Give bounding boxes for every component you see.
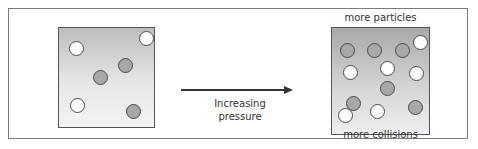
white-particle-icon: [139, 31, 154, 46]
grey-particle-icon: [367, 43, 382, 58]
more-collisions-label: more collisions: [331, 128, 430, 141]
arrow-shaft: [181, 89, 285, 91]
low-pressure-container: [58, 27, 155, 128]
arrow-head: [284, 86, 293, 94]
arrow-label-line2: pressure: [200, 110, 280, 123]
white-particle-icon: [413, 35, 428, 50]
white-particle-icon: [343, 65, 358, 80]
arrow-label: Increasing pressure: [200, 97, 280, 123]
arrow-label-line1: Increasing: [200, 97, 280, 110]
white-particle-icon: [69, 41, 84, 56]
grey-particle-icon: [380, 81, 395, 96]
white-particle-icon: [370, 104, 385, 119]
arrow-right-icon: [181, 86, 293, 94]
grey-particle-icon: [93, 70, 108, 85]
grey-particle-icon: [395, 43, 410, 58]
grey-particle-icon: [408, 100, 423, 115]
grey-particle-icon: [118, 58, 133, 73]
white-particle-icon: [380, 61, 395, 76]
white-particle-icon: [409, 66, 424, 81]
more-particles-label: more particles: [331, 11, 430, 24]
white-particle-icon: [338, 108, 353, 123]
grey-particle-icon: [340, 43, 355, 58]
white-particle-icon: [70, 98, 85, 113]
high-pressure-container: [331, 27, 430, 135]
grey-particle-icon: [126, 104, 141, 119]
